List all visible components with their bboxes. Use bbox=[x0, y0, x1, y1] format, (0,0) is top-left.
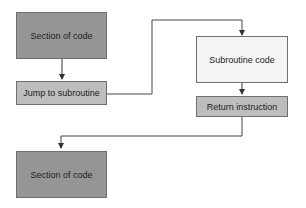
node-section-of-code-top: Section of code bbox=[16, 12, 107, 59]
node-label: Section of code bbox=[30, 170, 92, 180]
node-label: Subroutine code bbox=[209, 55, 275, 65]
node-label: Section of code bbox=[30, 31, 92, 41]
node-section-of-code-bottom: Section of code bbox=[16, 151, 107, 198]
node-subroutine-code: Subroutine code bbox=[196, 36, 288, 83]
node-return-instruction: Return instruction bbox=[196, 96, 288, 117]
edge-return-to-section bbox=[61, 117, 242, 148]
node-jump-to-subroutine: Jump to subroutine bbox=[16, 81, 107, 105]
node-label: Return instruction bbox=[207, 102, 278, 112]
node-label: Jump to subroutine bbox=[23, 88, 100, 98]
